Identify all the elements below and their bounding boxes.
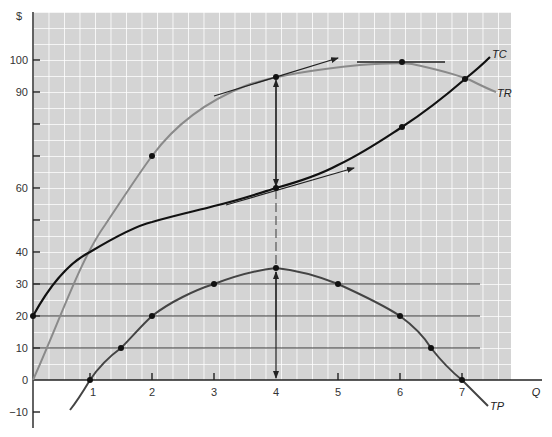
tp-point-q1-5 — [118, 345, 124, 351]
y-tick-30: 30 — [16, 278, 28, 290]
tr-label: TR — [497, 87, 512, 99]
y-tick-60: 60 — [16, 182, 28, 194]
tp-point-q3 — [211, 281, 217, 287]
x-tick-3: 3 — [211, 386, 217, 398]
y-tick-0: 0 — [22, 374, 28, 386]
x-tick-7: 7 — [459, 386, 465, 398]
x-tick-5: 5 — [335, 386, 341, 398]
y-tick-20: 20 — [16, 310, 28, 322]
y-tick-100: 100 — [10, 54, 28, 66]
y-axis-unit: $ — [16, 10, 22, 22]
tc-point-q6 — [399, 124, 405, 130]
tc-point-q0 — [30, 313, 36, 319]
tp-label: TP — [490, 400, 505, 412]
tr-point-q4 — [273, 74, 279, 80]
tp-point-q6 — [397, 313, 403, 319]
tc-tr-intersection-q7 — [462, 76, 468, 82]
y-tick-40: 40 — [16, 246, 28, 258]
x-tick-6: 6 — [397, 386, 403, 398]
y-tick-10: 10 — [16, 342, 28, 354]
tp-point-q6-5 — [428, 345, 434, 351]
tr-point-q2 — [149, 153, 155, 159]
y-tick-90: 90 — [16, 86, 28, 98]
x-tick-2: 2 — [149, 386, 155, 398]
tp-point-q1 — [87, 377, 93, 383]
x-axis-unit: Q — [532, 386, 541, 398]
tp-point-q5 — [335, 281, 341, 287]
tr-point-q6 — [399, 59, 405, 65]
tp-point-q7 — [459, 377, 465, 383]
y-tick-labels: $ 100 90 60 40 30 20 10 0 −10 — [9, 10, 28, 418]
y-tick-minus-10: −10 — [9, 406, 28, 418]
x-tick-4: 4 — [273, 386, 279, 398]
grid-background — [33, 12, 511, 380]
tc-point-q4 — [273, 185, 279, 191]
x-tick-1: 1 — [90, 386, 96, 398]
tc-label: TC — [492, 48, 507, 60]
tp-point-q2 — [149, 313, 155, 319]
tp-point-q4 — [273, 265, 279, 271]
economics-chart: $ 100 90 60 40 30 20 10 0 −10 1 2 3 4 5 … — [0, 0, 552, 437]
